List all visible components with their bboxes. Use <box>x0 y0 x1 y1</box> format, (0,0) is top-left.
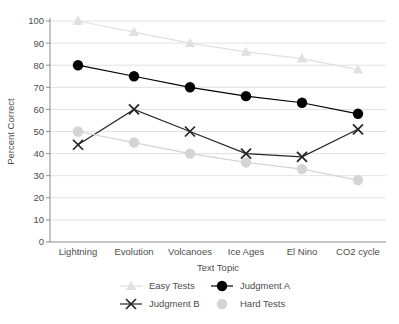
y-tick-label: 20 <box>33 192 44 203</box>
y-tick-label: 0 <box>39 236 44 247</box>
x-tick-label: Ice Ages <box>228 246 265 257</box>
data-point <box>353 109 363 119</box>
data-point <box>297 164 307 174</box>
data-point <box>73 126 83 136</box>
data-point <box>185 82 195 92</box>
legend-item-judgment-a[interactable]: Judgment A <box>211 280 291 291</box>
data-point <box>353 175 363 185</box>
circle-icon <box>217 281 227 291</box>
series-line <box>78 65 358 114</box>
y-tick-label: 40 <box>33 148 44 159</box>
circle-icon <box>217 299 227 309</box>
data-point <box>73 16 83 25</box>
x-tick-labels: LightningEvolutionVolcanoesIce AgesEl Ni… <box>59 246 380 257</box>
data-point <box>353 124 363 134</box>
data-point <box>73 140 83 150</box>
x-axis-title: Text Topic <box>197 262 239 273</box>
series-line <box>78 132 358 181</box>
triangle-icon <box>126 281 136 290</box>
x-tick-label: Evolution <box>114 246 153 257</box>
data-point <box>129 137 139 147</box>
legend-item-easy-tests[interactable]: Easy Tests <box>120 280 195 291</box>
legend-item-hard-tests[interactable]: Hard Tests <box>217 298 286 309</box>
legend-item-judgment-b[interactable]: Judgment B <box>120 298 200 309</box>
data-point <box>241 157 251 167</box>
data-point <box>73 60 83 70</box>
y-tick-label: 100 <box>28 15 44 26</box>
series-line <box>78 109 358 157</box>
series-hard-tests <box>73 126 363 185</box>
legend-label: Easy Tests <box>149 280 195 291</box>
y-tick-label: 50 <box>33 126 44 137</box>
y-tick-label: 10 <box>33 214 44 225</box>
data-point <box>241 91 251 101</box>
data-point <box>129 71 139 81</box>
legend-label: Judgment B <box>149 298 200 309</box>
y-tick-label: 90 <box>33 38 44 49</box>
y-tick-label: 60 <box>33 104 44 115</box>
legend-label: Hard Tests <box>240 298 285 309</box>
chart-container: 0102030405060708090100LightningEvolution… <box>0 0 399 324</box>
series-judgment-a <box>73 60 363 119</box>
y-axis-title: Percent Correct <box>5 98 16 165</box>
x-tick-label: El Nino <box>287 246 318 257</box>
y-tick-label: 70 <box>33 82 44 93</box>
series-line <box>78 21 358 70</box>
x-tick-label: Lightning <box>59 246 98 257</box>
line-chart: 0102030405060708090100LightningEvolution… <box>0 0 399 324</box>
x-tick-label: CO2 cycle <box>336 246 380 257</box>
x-tick-label: Volcanoes <box>168 246 212 257</box>
y-tick-label: 30 <box>33 170 44 181</box>
y-tick-label: 80 <box>33 60 44 71</box>
data-point <box>297 98 307 108</box>
data-point <box>185 148 195 158</box>
legend-label: Judgment A <box>240 280 291 291</box>
